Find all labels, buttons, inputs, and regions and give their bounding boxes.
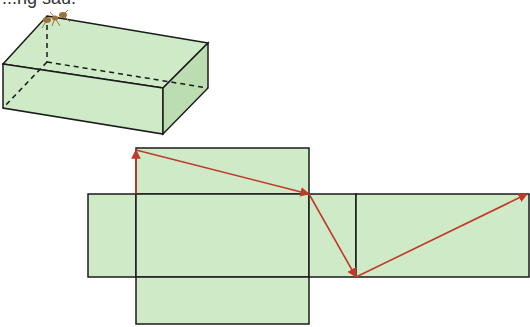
cuboid xyxy=(3,10,208,134)
net-center-face xyxy=(136,194,309,277)
net-left-flap xyxy=(88,194,136,277)
diagram-canvas xyxy=(0,0,530,327)
cuboid-net xyxy=(88,148,529,324)
net-bottom-flap xyxy=(136,277,309,324)
